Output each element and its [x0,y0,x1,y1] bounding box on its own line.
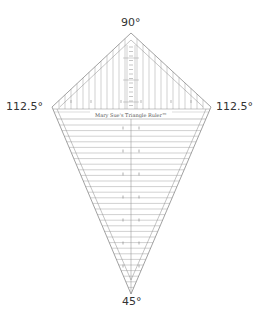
triangle-ruler-diagram: Mary Sue's Triangle Ruler™ [0,0,263,321]
ruler-label: Mary Sue's Triangle Ruler™ [95,112,167,119]
ruler-line [60,40,131,107]
ruler-outline [52,33,211,294]
ruler-line [57,109,131,280]
ruler-line [131,109,206,280]
